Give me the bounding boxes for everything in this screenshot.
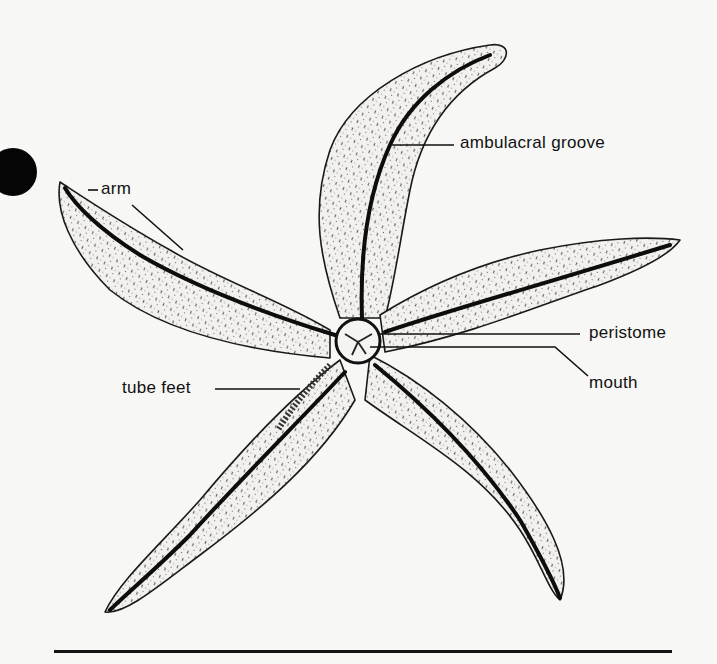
label-peristome: peristome [589,323,666,343]
label-tube-feet: tube feet [122,378,191,398]
starfish-diagram: arm ambulacral groove peristome mouth tu… [0,0,717,664]
arm-lower-right [365,355,564,600]
label-ambulacral-groove: ambulacral groove [460,133,605,153]
bottom-divider-rule [54,650,672,653]
central-disc [336,319,380,363]
label-mouth: mouth [589,373,638,393]
arm-left [59,182,330,358]
label-arm: arm [101,179,131,199]
